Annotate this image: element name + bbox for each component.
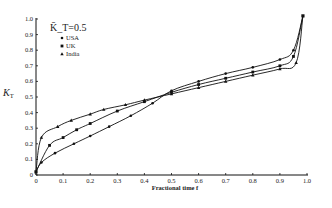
chart: 00.10.20.30.40.50.60.70.80.91.000.10.20.… <box>0 0 332 208</box>
data-point-marker <box>224 72 227 75</box>
legend-marker-dot-icon <box>61 37 64 40</box>
data-point-marker <box>197 80 200 83</box>
x-tick-label: 0.5 <box>167 177 175 184</box>
data-point-marker <box>251 71 254 74</box>
legend-item-usa: USA <box>66 34 79 41</box>
legend-marker-square-icon <box>61 45 64 48</box>
data-point-marker <box>151 102 154 105</box>
y-tick-label: 0 <box>30 171 33 178</box>
data-point-marker <box>279 58 282 61</box>
y-tick-label: 0.6 <box>25 77 34 84</box>
y-tick-label: 0.1 <box>25 155 33 162</box>
x-tick-label: 0.9 <box>276 177 284 184</box>
data-point-marker <box>116 110 119 113</box>
data-point-marker <box>130 114 133 117</box>
data-point-marker <box>75 128 78 131</box>
data-point-marker <box>292 49 295 52</box>
data-point-marker <box>62 136 65 139</box>
legend: K̄_T=0.5USAUKIndia <box>50 22 86 57</box>
x-tick-label: 1.0 <box>303 177 311 184</box>
y-axis-title: KT <box>2 87 14 99</box>
y-tick-label: 0.8 <box>25 46 33 53</box>
y-tick-label: 0.4 <box>25 109 34 116</box>
y-tick-label: 0.9 <box>25 31 33 38</box>
data-point-marker <box>294 61 297 64</box>
y-tick-label: 1.0 <box>25 15 33 22</box>
y-tick-label: 0.7 <box>25 62 34 69</box>
data-point-marker <box>89 135 92 138</box>
legend-marker-triangle-icon <box>60 52 63 55</box>
x-tick-label: 0.2 <box>86 177 94 184</box>
data-point-marker <box>108 125 111 128</box>
data-point-marker <box>224 77 227 80</box>
origin-marker <box>34 170 37 173</box>
x-tick-label: 0.4 <box>140 177 149 184</box>
x-axis-title: Fractional time f <box>152 184 199 191</box>
x-tick-label: 0.7 <box>222 177 231 184</box>
legend-item-india: India <box>66 50 79 57</box>
data-point-marker <box>292 55 295 58</box>
y-tick-label: 0.5 <box>25 93 33 100</box>
x-tick-label: 0.6 <box>195 177 204 184</box>
data-point-marker <box>73 143 76 146</box>
y-tick-label: 0.3 <box>25 124 33 131</box>
x-tick-label: 0.3 <box>113 177 121 184</box>
x-tick-label: 0.8 <box>249 177 257 184</box>
endpoint-marker <box>301 14 304 17</box>
data-point-marker <box>48 144 51 147</box>
axes: 00.10.20.30.40.50.60.70.80.91.000.10.20.… <box>2 15 311 191</box>
x-tick-label: 0 <box>34 177 37 184</box>
x-tick-label: 0.1 <box>59 177 67 184</box>
data-point-marker <box>197 83 200 86</box>
legend-title: K̄_T=0.5 <box>50 22 86 33</box>
data-point-marker <box>252 66 255 69</box>
y-tick-label: 0.2 <box>25 140 33 147</box>
data-point-marker <box>279 64 282 67</box>
data-point-marker <box>54 152 57 155</box>
data-point-marker <box>89 122 92 125</box>
legend-item-uk: UK <box>66 42 76 49</box>
